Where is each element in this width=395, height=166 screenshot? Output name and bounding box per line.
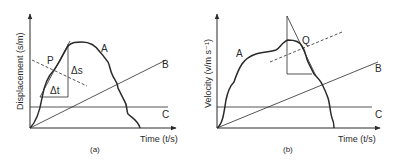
x-axis-label: Time (t/s) — [338, 134, 376, 144]
figure: P Δs Δt A B C Displacement (s/m) Time (t… — [0, 0, 395, 166]
delta-s-label: Δs — [71, 65, 83, 76]
curve-c-label: C — [162, 109, 169, 120]
curve-a-label: A — [236, 48, 243, 59]
curve-a — [217, 40, 334, 128]
y-axis-label: Displacement (s/m) — [15, 32, 25, 110]
line-b — [217, 62, 378, 128]
point-q-label: Q — [302, 35, 310, 46]
panel-a: P Δs Δt A B C Displacement (s/m) Time (t… — [15, 14, 178, 154]
x-axis-label: Time (t/s) — [140, 134, 178, 144]
curve-b-label: B — [162, 59, 169, 70]
point-p-label: P — [47, 55, 54, 66]
panel-a-caption: (a) — [90, 145, 100, 154]
panel-b: Q A B C Velocity (v/m s⁻¹) Time (t/s) (b… — [203, 14, 382, 154]
curve-c-label: C — [375, 109, 382, 120]
delta-t-label: Δt — [50, 85, 60, 96]
panel-b-caption: (b) — [283, 145, 293, 154]
y-axis-label: Velocity (v/m s⁻¹) — [203, 39, 213, 108]
tangent-line — [287, 16, 316, 76]
curve-a-label: A — [101, 43, 108, 54]
curve-b-label: B — [375, 63, 382, 74]
